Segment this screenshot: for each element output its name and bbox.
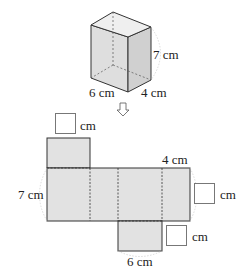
answer-unit-top: cm	[80, 119, 96, 132]
net-height-label: 7 cm	[18, 188, 44, 201]
prism-depth-label: 4 cm	[141, 86, 167, 99]
answer-box-top[interactable]	[55, 113, 76, 134]
net-depth-label: 4 cm	[162, 153, 188, 166]
answer-unit-right: cm	[220, 188, 236, 201]
answer-box-right[interactable]	[194, 183, 215, 204]
prism-width-label: 6 cm	[89, 86, 115, 99]
rectangular-prism	[91, 12, 161, 92]
down-arrow-icon	[117, 103, 129, 116]
prism-height-label: 7 cm	[153, 48, 179, 61]
answer-unit-bottom: cm	[192, 230, 208, 243]
net-width-label: 6 cm	[127, 255, 153, 268]
diagram-canvas	[0, 0, 249, 280]
answer-box-bottom[interactable]	[166, 225, 187, 246]
